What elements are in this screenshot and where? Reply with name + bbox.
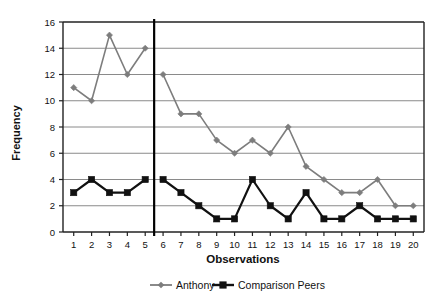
data-point [124,190,130,196]
legend-label: Comparison Peers [238,279,325,291]
x-tick-label: 13 [283,239,294,250]
data-point [267,203,273,209]
data-point [178,190,184,196]
data-point [321,216,327,222]
line-chart: Frequency 0246810121416 1234567891011121… [0,0,446,300]
x-tick-label: 5 [143,239,148,250]
x-tick-label: 20 [408,239,419,250]
x-tick-label: 17 [354,239,365,250]
x-tick-label: 7 [178,239,183,250]
data-point [196,203,202,209]
x-tick-label: 9 [214,239,219,250]
data-point [231,216,237,222]
x-tick-label: 10 [229,239,240,250]
data-point [339,216,345,222]
x-tick-label: 3 [107,239,112,250]
data-point [392,216,398,222]
x-tick-label: 6 [160,239,165,250]
data-point [71,190,77,196]
data-point [357,203,363,209]
x-tick-label: 8 [196,239,201,250]
data-point [160,176,166,182]
y-tick-label: 4 [50,174,55,185]
data-point [285,216,291,222]
y-tick-label: 2 [50,200,55,211]
data-point [88,176,94,182]
legend-swatch-marker [219,281,226,288]
y-tick-label: 6 [50,148,55,159]
y-axis-title: Frequency [10,104,22,161]
x-tick-label: 14 [301,239,312,250]
data-point [410,216,416,222]
x-tick-label: 11 [247,239,257,250]
legend-label: Anthony [176,279,215,291]
chart-legend: AnthonyComparison Peers [150,279,325,291]
data-point [303,190,309,196]
data-point [374,216,380,222]
data-point [142,176,148,182]
y-tick-label: 16 [44,17,55,28]
x-tick-label: 15 [319,239,330,250]
data-point [214,216,220,222]
y-tick-label: 8 [50,122,55,133]
data-point [249,176,255,182]
chart-svg: Frequency 0246810121416 1234567891011121… [0,0,446,300]
y-tick-label: 0 [50,227,55,238]
y-tick-label: 12 [44,69,55,80]
x-tick-label: 19 [390,239,401,250]
x-axis-title: Observations [206,253,280,265]
x-tick-label: 16 [337,239,348,250]
y-tick-label: 10 [44,95,55,106]
x-tick-label: 2 [89,239,94,250]
x-tick-label: 1 [71,239,76,250]
x-tick-label: 4 [125,239,130,250]
x-tick-label: 18 [372,239,383,250]
x-tick-label: 12 [265,239,276,250]
data-point [106,190,112,196]
y-tick-label: 14 [44,43,55,54]
